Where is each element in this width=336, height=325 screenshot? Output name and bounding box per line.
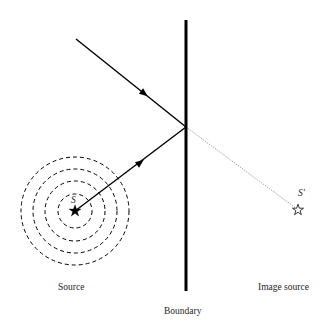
diagram-canvas xyxy=(0,0,336,325)
reflected-ray xyxy=(75,127,186,211)
image-source-point-label: S′ xyxy=(298,189,305,199)
source-caption: Source xyxy=(58,283,84,293)
incident-ray-line xyxy=(76,39,186,127)
source-point-label: S xyxy=(71,196,76,206)
image-source-star-icon xyxy=(292,204,303,214)
image-source-caption: Image source xyxy=(258,283,309,293)
virtual-ray-line xyxy=(186,127,297,209)
reflected-ray-line xyxy=(75,127,186,211)
incident-ray xyxy=(76,39,186,127)
reflection-diagram: S S′ Source Image source Boundary xyxy=(0,0,336,325)
source-star-icon xyxy=(69,205,81,216)
boundary-caption: Boundary xyxy=(164,307,201,317)
